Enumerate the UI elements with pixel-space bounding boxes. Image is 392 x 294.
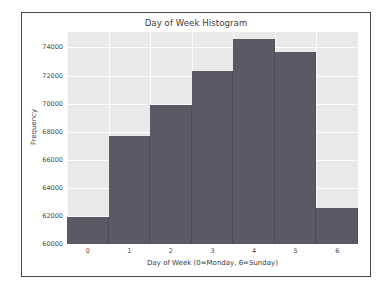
bar — [192, 71, 234, 244]
y-axis-tick-labels: 6000062000640006600068000700007200074000 — [22, 13, 63, 276]
x-axis-tick-label: 6 — [335, 247, 339, 255]
x-axis-tick-labels: 0123456 — [67, 247, 358, 259]
x-axis-tick-label: 1 — [127, 247, 131, 255]
x-axis-label: Day of Week (0=Monday, 6=Sunday) — [67, 259, 358, 267]
x-axis-tick-label: 4 — [252, 247, 256, 255]
chart-title: Day of Week Histogram — [22, 18, 370, 28]
y-axis-tick-label: 66000 — [42, 156, 63, 164]
bar — [67, 217, 109, 244]
y-axis-tick-label: 70000 — [42, 100, 63, 108]
bar — [109, 136, 151, 244]
y-axis-tick-label: 74000 — [42, 43, 63, 51]
y-axis-tick-label: 64000 — [42, 184, 63, 192]
bar — [316, 208, 358, 244]
plot-area — [67, 32, 358, 244]
bar — [150, 105, 192, 244]
x-axis-tick-label: 5 — [294, 247, 298, 255]
chart-figure: Day of Week Histogram Frequency 60000620… — [21, 12, 371, 277]
x-axis-tick-label: 2 — [169, 247, 173, 255]
y-axis-tick-label: 72000 — [42, 72, 63, 80]
bar — [275, 52, 317, 244]
gridline-horizontal — [67, 47, 358, 48]
gridline-vertical — [67, 32, 68, 244]
y-axis-tick-label: 62000 — [42, 212, 63, 220]
x-axis-tick-label: 0 — [86, 247, 90, 255]
bar — [233, 39, 275, 244]
x-axis-tick-label: 3 — [210, 247, 214, 255]
y-axis-tick-label: 60000 — [42, 240, 63, 248]
y-axis-tick-label: 68000 — [42, 128, 63, 136]
